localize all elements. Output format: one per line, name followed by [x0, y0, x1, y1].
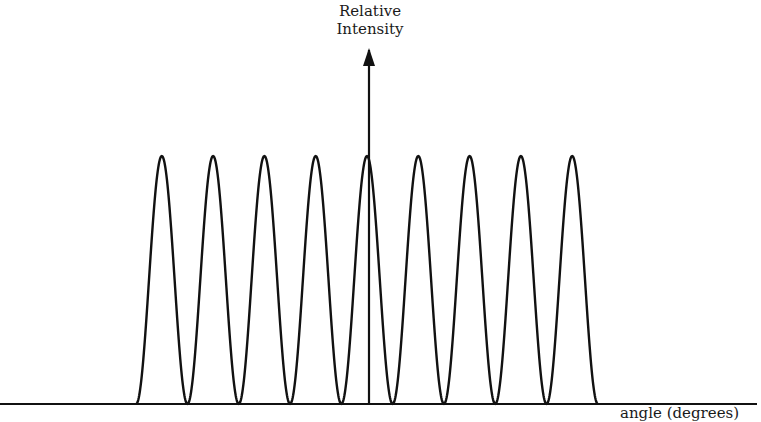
y-axis-label-line2: Intensity — [300, 20, 440, 38]
y-axis-label-line1: Relative — [300, 2, 440, 20]
intensity-curve — [136, 156, 598, 404]
y-axis-label: Relative Intensity — [300, 2, 440, 38]
y-axis-arrow-icon — [363, 48, 375, 66]
x-axis-label: angle (degrees) — [620, 404, 739, 422]
